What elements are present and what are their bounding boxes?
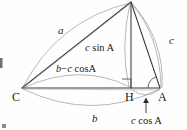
- ray-C-to-A-low: [23, 89, 160, 90]
- arc-altitude: [125, 3, 130, 87]
- label-side-a: a: [58, 24, 64, 36]
- segment-BA: [131, 2, 160, 88]
- label-right-segment: c cos A: [131, 115, 162, 126]
- vertex-label-H: H: [125, 90, 134, 104]
- left-edge-artifact: [0, 58, 3, 68]
- up-arrow-icon: [143, 98, 149, 114]
- ray-C-to-B: [23, 3, 131, 88]
- vertex-label-A: A: [158, 90, 167, 104]
- angle-arc-A-icon: [148, 77, 156, 88]
- geometry-figure: a c c sin A b−c cosA b c cos A C H A: [0, 0, 187, 130]
- label-left-segment: b−c cosA: [56, 63, 96, 74]
- label-altitude: c sin A: [85, 42, 115, 53]
- bottom-left-artifact: [2, 124, 6, 128]
- arc-base-b: [23, 89, 160, 106]
- arc-left-segment: [23, 75, 130, 88]
- triangle-diagram-svg: a c c sin A b−c cosA b c cos A C H A: [0, 0, 187, 130]
- label-side-c: c: [169, 34, 174, 46]
- vertex-label-C: C: [12, 90, 20, 104]
- label-base-b: b: [92, 112, 98, 124]
